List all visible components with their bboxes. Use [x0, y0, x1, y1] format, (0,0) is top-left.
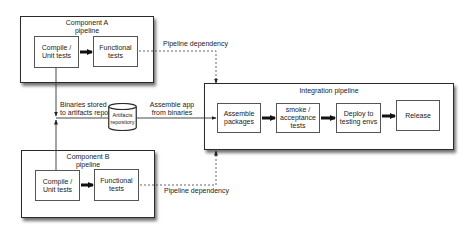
- repository-label: Artifacts repository: [110, 108, 134, 126]
- component-a-title: Component A pipeline: [21, 19, 153, 35]
- smoke-acceptance-tests-stage: smoke / acceptance tests: [276, 103, 320, 133]
- component-a-functional-stage: Functional tests: [93, 36, 138, 67]
- component-a-compile-stage: Compile / Unit tests: [34, 36, 79, 68]
- pipeline-dependency-label-top: Pipeline dependency: [163, 40, 228, 48]
- assemble-packages-stage: Assemble packages: [217, 103, 261, 133]
- integration-title: Integration pipeline: [205, 87, 453, 95]
- artifacts-repository: Artifacts repository: [108, 103, 137, 131]
- component-b-title: Component B pipeline: [22, 153, 154, 169]
- component-b-compile-stage: Compile / Unit tests: [35, 170, 80, 201]
- component-b-functional-stage: Functional tests: [94, 169, 139, 201]
- assemble-app-label: Assemble app from binaries: [145, 101, 199, 117]
- release-stage: Release: [396, 100, 440, 131]
- pipeline-diagram: Component A pipeline Compile / Unit test…: [0, 0, 473, 234]
- pipeline-dependency-label-bottom: Pipeline dependency: [164, 187, 229, 195]
- deploy-testing-envs-stage: Deploy to testing envs: [336, 103, 381, 133]
- binaries-stored-label: Binaries stored to artifacts repo: [60, 101, 108, 117]
